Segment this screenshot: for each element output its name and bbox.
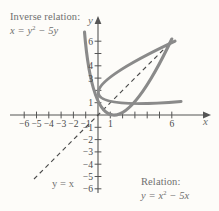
y-axis-arrowhead (95, 16, 102, 24)
svg-text:1: 1 (88, 97, 93, 108)
y-axis-label: y (87, 14, 93, 26)
svg-text:−6: −6 (83, 183, 93, 194)
svg-text:6: 6 (88, 36, 93, 47)
svg-text:−5: −5 (83, 171, 93, 182)
svg-text:1: 1 (108, 118, 113, 129)
inverse-relation-title: Inverse relation: (10, 11, 80, 22)
inverse-relation-equation: x = y2 − 5y (10, 25, 80, 38)
inverse-relation-annotation: Inverse relation: x = y2 − 5y (10, 11, 80, 38)
relation-equation-suffix: − 5x (167, 190, 190, 201)
svg-text:6: 6 (169, 118, 174, 129)
svg-text:−2: −2 (68, 118, 78, 129)
svg-text:4: 4 (88, 60, 93, 71)
relation-annotation: Relation: y = x2 − 5x (141, 176, 189, 203)
svg-text:−4: −4 (83, 159, 93, 170)
inverse-equation-suffix: − 5y (36, 25, 59, 36)
relation-equation-prefix: y = x (141, 190, 163, 201)
inverse-equation-prefix: x = y (10, 25, 32, 36)
svg-text:−5: −5 (31, 118, 41, 129)
svg-text:−3: −3 (83, 146, 93, 157)
x-axis-label: x (202, 115, 208, 127)
relation-title: Relation: (141, 176, 180, 187)
svg-text:3: 3 (88, 73, 93, 84)
svg-text:−2: −2 (83, 134, 93, 145)
relation-equation: y = x2 − 5x (141, 190, 189, 203)
svg-text:−4: −4 (44, 118, 54, 129)
svg-text:−1: −1 (83, 122, 93, 133)
identity-line-label: y = x (52, 178, 74, 191)
axes-group (10, 16, 211, 193)
svg-text:−6: −6 (19, 118, 29, 129)
svg-text:−3: −3 (56, 118, 66, 129)
